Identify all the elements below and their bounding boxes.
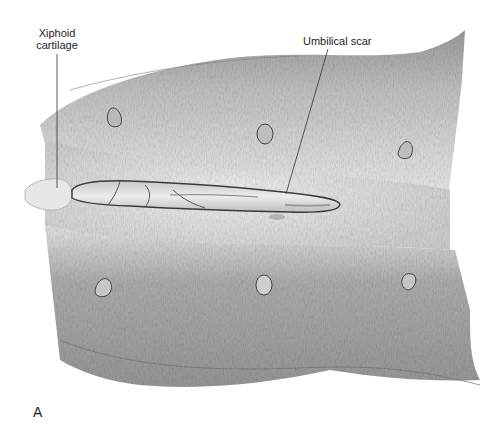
teat-lower-center — [256, 275, 272, 295]
xiphoid-cartilage — [25, 179, 72, 210]
umbilical-scar-label: Umbilical scar — [303, 35, 371, 47]
lower-abdomen-region — [45, 225, 480, 387]
xiphoid-label-line2: cartilage — [32, 39, 82, 51]
xiphoid-label-line1: Xiphoid — [32, 27, 82, 39]
abdomen-illustration — [0, 0, 503, 437]
xiphoid-cartilage-label: Xiphoid cartilage — [32, 27, 82, 51]
teat-upper-center — [257, 124, 273, 144]
panel-letter: A — [33, 404, 42, 420]
